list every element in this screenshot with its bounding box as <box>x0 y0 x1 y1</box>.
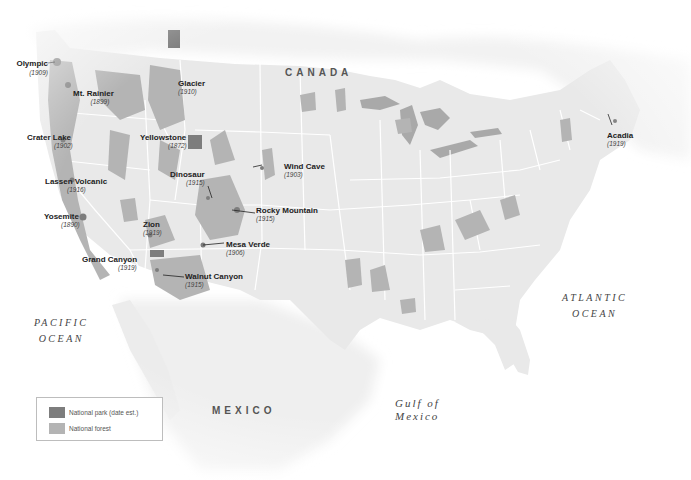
park-label-crater-lake: Crater Lake (1902) <box>27 134 73 150</box>
map-legend: National park (date est.) National fores… <box>36 397 163 441</box>
gulf-line2: Mexico <box>395 410 440 423</box>
park-label-zion: Zion (1919) <box>143 221 162 237</box>
park-label-wind-cave: Wind Cave (1903) <box>284 163 325 179</box>
legend-label: National forest <box>69 425 111 432</box>
park-label-yosemite: Yosemite (1890) <box>44 213 80 229</box>
label-gulf-of-mexico: Gulf of Mexico <box>395 397 440 423</box>
gulf-line1: Gulf of <box>395 397 440 410</box>
pacific-line2: OCEAN <box>34 331 89 347</box>
atlantic-line1: ATLANTIC <box>562 290 627 306</box>
park-label-dinosaur: Dinosaur (1915) <box>170 171 205 187</box>
national-park-swatch <box>49 407 65 418</box>
atlantic-line2: OCEAN <box>562 306 627 322</box>
legend-item-national-park: National park (date est.) <box>49 407 138 417</box>
label-atlantic-ocean: ATLANTIC OCEAN <box>562 290 627 322</box>
park-label-grand-canyon: Grand Canyon (1919) <box>82 256 137 272</box>
park-label-glacier: Glacier (1910) <box>178 80 205 96</box>
national-forest-swatch <box>49 423 65 434</box>
park-label-mesa-verde: Mesa Verde (1906) <box>226 241 270 257</box>
park-label-mt-rainier: Mt. Rainier (1899) <box>73 90 114 106</box>
label-canada: CANADA <box>285 68 352 78</box>
park-label-walnut-canyon: Walnut Canyon (1915) <box>185 273 243 289</box>
park-label-lassen-volcanic: Lassen Volcanic (1916) <box>45 178 107 194</box>
legend-item-national-forest: National forest <box>49 423 111 433</box>
label-mexico: MEXICO <box>212 406 275 416</box>
legend-label: National park (date est.) <box>69 409 138 416</box>
park-label-yellowstone: Yellowstone (1872) <box>140 134 187 150</box>
label-pacific-ocean: PACIFIC OCEAN <box>34 315 89 347</box>
park-label-acadia: Acadia (1919) <box>607 132 633 148</box>
park-label-rocky-mountain: Rocky Mountain (1915) <box>256 207 318 223</box>
pacific-line1: PACIFIC <box>34 315 89 331</box>
